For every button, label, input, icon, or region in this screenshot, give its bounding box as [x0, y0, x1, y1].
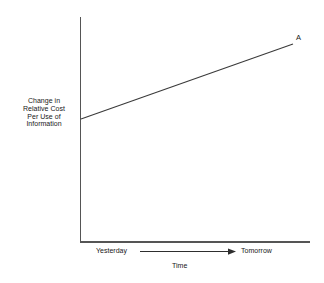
series-label-a: A [296, 34, 301, 42]
y-axis-label-line-3: Per Use of [12, 113, 76, 121]
x-direction-arrow-head [228, 248, 236, 254]
x-axis-tick-label-yesterday: Yesterday [96, 247, 127, 255]
x-axis-label: Time [172, 262, 187, 270]
y-axis-label-line-4: Information [12, 120, 76, 128]
x-axis-tick-label-tomorrow: Tomorrow [241, 247, 272, 255]
y-axis-label: Change in Relative Cost Per Use of Infor… [12, 97, 76, 128]
series-line-a [81, 44, 293, 119]
chart-figure: Change in Relative Cost Per Use of Infor… [0, 0, 324, 283]
chart-plot-area [0, 0, 324, 283]
y-axis-label-line-2: Relative Cost [12, 105, 76, 113]
y-axis-label-line-1: Change in [12, 97, 76, 105]
